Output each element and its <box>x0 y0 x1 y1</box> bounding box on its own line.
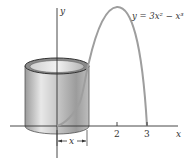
y-axis-label: y <box>59 6 66 16</box>
x-axis-label: x <box>176 129 181 139</box>
tick-label-3: 3 <box>144 129 150 139</box>
equation-label: y = 3x² − x³ <box>131 11 184 21</box>
width-label: x <box>69 136 74 146</box>
shell-method-diagram: y x 2 3 y = 3x² − x³ x <box>0 0 186 166</box>
diagram-canvas: y x 2 3 y = 3x² − x³ x <box>0 0 186 166</box>
tick-label-2: 2 <box>114 129 120 139</box>
